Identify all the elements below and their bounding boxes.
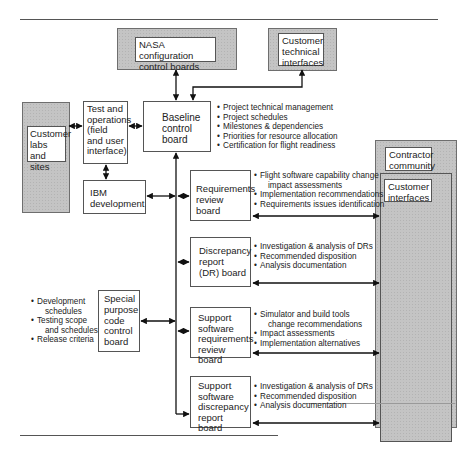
connector-lines (0, 0, 462, 452)
